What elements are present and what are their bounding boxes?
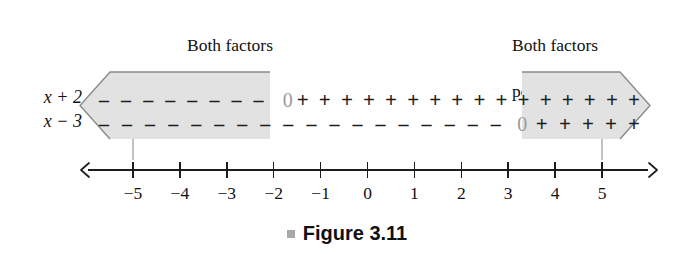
tick-mark	[461, 162, 463, 178]
sign-plus: +	[403, 88, 423, 112]
sign-minus: –	[301, 112, 321, 136]
tick-mark	[132, 162, 134, 178]
callout-negative-line1: Both factors	[150, 34, 310, 57]
sign-minus: –	[94, 112, 114, 136]
sign-minus: –	[116, 88, 136, 112]
sign-plus: +	[624, 112, 644, 136]
sign-plus: +	[532, 112, 552, 136]
sign-minus: –	[204, 88, 224, 112]
tick-mark	[179, 162, 181, 178]
number-line: −5−4−3−2−1012345	[0, 150, 694, 200]
sign-plus: +	[536, 88, 556, 112]
sign-plus: +	[425, 88, 445, 112]
sign-minus: –	[160, 88, 180, 112]
tick-mark	[320, 162, 322, 178]
sign-plus: +	[359, 88, 379, 112]
sign-minus: –	[255, 112, 275, 136]
sign-plus: +	[492, 88, 512, 112]
sign-plus: +	[381, 88, 401, 112]
sign-plus: +	[469, 88, 489, 112]
tick-label: 5	[585, 183, 619, 204]
tick-label: −1	[304, 183, 338, 204]
tick-label: −3	[210, 183, 244, 204]
left-arrow-icon	[80, 162, 94, 178]
sign-minus: –	[117, 112, 137, 136]
sign-plus: +	[555, 112, 575, 136]
sign-plus: +	[624, 88, 644, 112]
sign-zero: 0	[512, 112, 532, 136]
tick-label: −4	[163, 183, 197, 204]
tick-label: 2	[444, 183, 478, 204]
square-bullet-icon	[287, 230, 295, 238]
sign-minus: –	[394, 112, 414, 136]
sign-minus: –	[249, 88, 269, 112]
sign-minus: –	[347, 112, 367, 136]
figure-caption: Figure 3.11	[0, 222, 694, 245]
tick-mark	[554, 162, 556, 178]
sign-minus: –	[186, 112, 206, 136]
tick-label: −2	[257, 183, 291, 204]
tick-label: 4	[538, 183, 572, 204]
sign-minus: –	[371, 112, 391, 136]
sign-minus: –	[417, 112, 437, 136]
tick-mark	[226, 162, 228, 178]
sign-minus: –	[140, 112, 160, 136]
sign-plus: +	[601, 112, 621, 136]
sign-minus: –	[486, 112, 506, 136]
sign-plus: +	[514, 88, 534, 112]
sign-plus: +	[580, 88, 600, 112]
tick-label: 3	[491, 183, 525, 204]
sign-plus: +	[293, 88, 313, 112]
tick-label: 1	[397, 183, 431, 204]
sign-minus: –	[182, 88, 202, 112]
sign-minus: –	[278, 112, 298, 136]
sign-plus: +	[447, 88, 467, 112]
tick-mark	[414, 162, 416, 178]
sign-minus: –	[209, 112, 229, 136]
row-label-x-minus-3: x − 3	[20, 111, 82, 132]
sign-plus: +	[578, 112, 598, 136]
sign-minus: –	[440, 112, 460, 136]
sign-minus: –	[163, 112, 183, 136]
tick-label: −5	[116, 183, 150, 204]
sign-minus: –	[463, 112, 483, 136]
sign-plus: +	[337, 88, 357, 112]
tick-mark	[507, 162, 509, 178]
callout-positive-line1: Both factors	[512, 34, 677, 57]
sign-minus: –	[227, 88, 247, 112]
right-arrow-icon	[644, 162, 658, 178]
row-label-x-plus-2: x + 2	[20, 87, 82, 108]
figure-caption-text: Figure 3.11	[303, 222, 408, 244]
tick-label: 0	[351, 183, 385, 204]
tick-mark	[367, 162, 369, 178]
sign-plus: +	[315, 88, 335, 112]
figure-3-11: Both factors negative Both factors posit…	[0, 0, 694, 260]
tick-mark	[601, 162, 603, 178]
sign-plus: +	[602, 88, 622, 112]
sign-minus: –	[232, 112, 252, 136]
tick-mark	[273, 162, 275, 178]
sign-minus: –	[138, 88, 158, 112]
sign-minus: –	[324, 112, 344, 136]
sign-minus: –	[94, 88, 114, 112]
sign-plus: +	[558, 88, 578, 112]
